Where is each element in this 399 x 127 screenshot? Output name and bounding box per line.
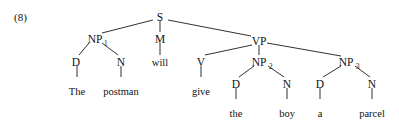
node-np1: NP — [88, 33, 103, 45]
edge-vp-v — [205, 45, 252, 55]
example-number-label: (8) — [14, 11, 27, 24]
node-np2-subscript: 2 — [269, 63, 273, 71]
leaf-boy: boy — [279, 108, 296, 119]
node-np2: NP — [252, 56, 267, 68]
node-d-parcel-det: D — [316, 78, 324, 90]
node-s: S — [157, 11, 163, 23]
leaf-postman: postman — [103, 86, 139, 97]
node-v: V — [197, 56, 206, 68]
node-m: M — [155, 33, 165, 45]
node-np3: NP — [339, 56, 354, 68]
node-n-boy: N — [283, 78, 292, 90]
edge-vp-np3 — [267, 43, 341, 56]
leaf-the-1: The — [69, 86, 86, 97]
syntax-tree-figure: S NP 1 M VP D N V NP 2 NP 3 D N D N The … — [0, 0, 399, 127]
leaf-will: will — [152, 57, 168, 68]
edge-s-vp — [168, 20, 251, 36]
leaf-a: a — [318, 108, 323, 119]
leaf-parcel: parcel — [359, 108, 385, 119]
node-d-boy-det: D — [232, 78, 240, 90]
node-n-parcel: N — [368, 78, 377, 90]
node-n-postman: N — [117, 56, 126, 68]
node-np1-subscript: 1 — [104, 40, 108, 48]
edge-s-np1 — [102, 20, 153, 33]
node-vp: VP — [252, 35, 267, 47]
leaf-the-2: the — [230, 108, 243, 119]
node-d-postman-det: D — [72, 56, 80, 68]
node-np3-subscript: 3 — [356, 63, 360, 71]
syntax-tree-canvas: S NP 1 M VP D N V NP 2 NP 3 D N D N The … — [0, 0, 399, 127]
leaf-give: give — [192, 86, 210, 97]
